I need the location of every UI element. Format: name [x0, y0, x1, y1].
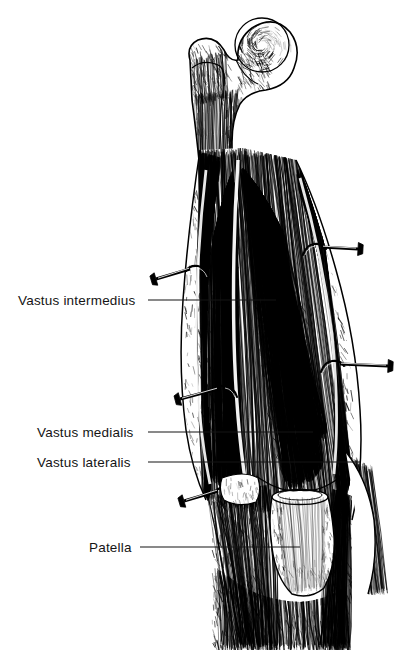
hook-handle [358, 243, 364, 256]
label-text-vastus-medialis: Vastus medialis [37, 425, 134, 440]
retracted-tissue-flap [220, 474, 259, 505]
anatomical-illustration: Vastus intermediusVastus medialisVastus … [0, 0, 407, 658]
label-text-vastus-lateralis: Vastus lateralis [37, 455, 131, 470]
hook-handle [388, 360, 394, 373]
label-text-patella: Patella [89, 540, 132, 555]
label-text-vastus-intermedius: Vastus intermedius [18, 293, 135, 308]
